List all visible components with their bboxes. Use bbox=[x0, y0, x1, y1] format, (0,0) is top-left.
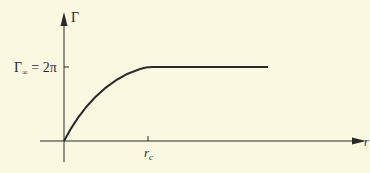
gamma-curve bbox=[64, 67, 268, 141]
y-axis-arrow-icon bbox=[61, 12, 68, 26]
asymptote-label-rest: = 2π bbox=[28, 60, 57, 75]
x-tick-label-rc: rc bbox=[144, 145, 153, 162]
x-axis-label: r bbox=[364, 135, 369, 149]
asymptote-label: Γ∞ = 2π bbox=[14, 60, 57, 77]
x-tick-label-sub: c bbox=[149, 152, 153, 162]
circulation-diagram: Γ r Γ∞ = 2π rc bbox=[0, 0, 370, 173]
y-axis-label: Γ bbox=[71, 10, 79, 25]
asymptote-label-main: Γ bbox=[14, 60, 22, 75]
